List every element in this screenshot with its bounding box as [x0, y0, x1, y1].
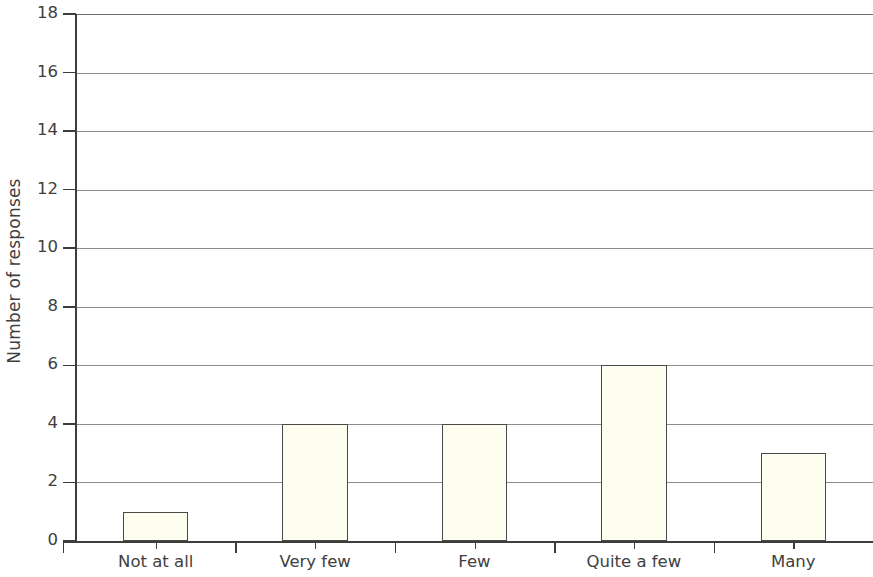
y-axis-tick-label: 10	[0, 239, 58, 256]
y-axis-tick	[63, 540, 76, 542]
plot-area	[76, 14, 873, 541]
x-axis-tick-label: Very few	[235, 552, 394, 572]
gridline	[76, 307, 873, 308]
y-axis-tick	[63, 423, 76, 425]
x-axis-minor-tick	[793, 542, 794, 549]
y-axis-tick-label: 18	[0, 5, 58, 22]
y-axis-tick	[63, 72, 76, 74]
bar-chart: Number of responses 024681012141618 Not …	[0, 0, 873, 577]
y-axis-tick	[63, 247, 76, 249]
y-axis-title-label: Number of responses	[4, 178, 24, 363]
y-axis-tick-label: 16	[0, 64, 58, 81]
x-axis-tick-label: Few	[395, 552, 554, 572]
y-axis-title: Number of responses	[0, 0, 28, 541]
x-axis-tick-label: Quite a few	[554, 552, 713, 572]
gridline	[76, 190, 873, 191]
x-axis-line	[63, 541, 873, 543]
y-axis-line	[75, 14, 77, 542]
x-axis-minor-tick	[634, 542, 635, 549]
y-axis-tick-label: 6	[0, 356, 58, 373]
y-axis-tick	[63, 482, 76, 484]
y-axis-tick-label: 8	[0, 298, 58, 315]
x-axis-minor-tick	[315, 542, 316, 549]
bar	[761, 453, 826, 541]
gridline	[76, 248, 873, 249]
y-axis-tick-label: 14	[0, 122, 58, 139]
x-axis-tick-label: Not at all	[76, 552, 235, 572]
bar	[282, 424, 347, 541]
y-axis-tick	[63, 130, 76, 132]
bar	[601, 365, 666, 541]
gridline	[76, 365, 873, 366]
gridline	[76, 14, 873, 15]
y-axis-tick-label: 2	[0, 473, 58, 490]
y-axis-tick	[63, 189, 76, 191]
y-axis-tick	[63, 306, 76, 308]
y-axis-tick-label: 0	[0, 532, 58, 549]
x-axis-tick-label: Many	[714, 552, 873, 572]
y-axis-tick-label: 4	[0, 415, 58, 432]
bar	[123, 512, 188, 541]
gridline	[76, 131, 873, 132]
y-axis-tick-label: 12	[0, 181, 58, 198]
gridline	[76, 73, 873, 74]
y-axis-tick	[63, 13, 76, 15]
x-axis-minor-tick	[475, 542, 476, 549]
x-axis-tick	[63, 542, 64, 553]
y-axis-tick	[63, 365, 76, 367]
x-axis-minor-tick	[156, 542, 157, 549]
bar	[442, 424, 507, 541]
